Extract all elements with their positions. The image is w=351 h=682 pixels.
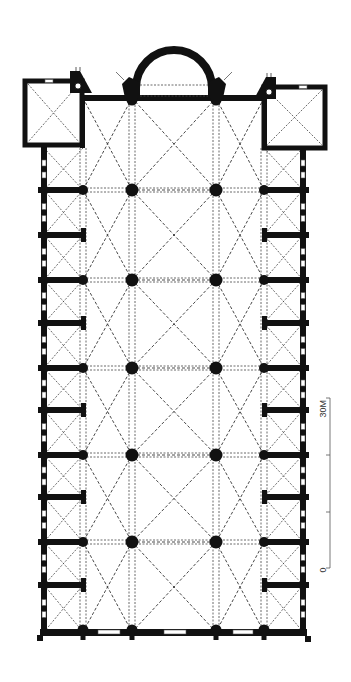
window (301, 172, 305, 178)
buttress-wall (38, 494, 83, 500)
aisle-pier (259, 275, 269, 285)
buttress-wall (38, 277, 83, 283)
spiral-stair-icon (266, 89, 272, 95)
buttress-wall (38, 320, 83, 326)
stair-turret (254, 77, 276, 99)
window (42, 337, 46, 343)
nave-pier (126, 274, 139, 287)
left-chapel (25, 67, 92, 145)
buttress-end (81, 228, 86, 242)
window (42, 612, 46, 618)
window (42, 172, 46, 178)
window (42, 511, 46, 517)
nave-pier (210, 449, 223, 462)
buttress-wall (264, 320, 309, 326)
window (42, 392, 46, 398)
piers (78, 95, 270, 641)
buttress-wall (264, 582, 309, 588)
nave-pier (210, 274, 223, 287)
window (301, 392, 305, 398)
window (42, 436, 46, 442)
buttress-wall (264, 407, 309, 413)
window (42, 204, 46, 210)
buttress-wall (264, 494, 309, 500)
nave-pier (126, 449, 139, 462)
buttress-end (262, 490, 267, 504)
aisle-vault-rib (216, 455, 264, 542)
aisle-pier (78, 450, 88, 460)
apse-tick (224, 72, 232, 80)
window (42, 467, 46, 473)
window (301, 249, 305, 255)
buttress-wall (264, 187, 309, 193)
window (42, 249, 46, 255)
scale-label-0: 0 (318, 567, 328, 572)
buttress-end (262, 316, 267, 330)
aisle-vault-rib (216, 455, 264, 542)
buttress-end (81, 490, 86, 504)
corner-buttress (37, 635, 43, 641)
west-pier-buttress (130, 632, 135, 640)
buttress-wall (38, 407, 83, 413)
window (301, 479, 305, 485)
nave-pier (126, 184, 139, 197)
window (42, 216, 46, 222)
buttress-wall (38, 539, 83, 545)
buttress-wall (38, 187, 83, 193)
aisle-pier (259, 537, 269, 547)
aisle-pier (259, 450, 269, 460)
door (233, 630, 253, 634)
window (301, 436, 305, 442)
aisle-vault-rib (83, 455, 132, 542)
aisle-pier (78, 275, 88, 285)
chapel-window (45, 80, 53, 83)
window (301, 380, 305, 386)
aisle-pier (78, 537, 88, 547)
west-pier-buttress (81, 632, 86, 640)
door (98, 630, 120, 634)
outer-aisle-rib (44, 585, 83, 632)
west-pier-buttress (214, 632, 219, 640)
buttress-wall (38, 582, 83, 588)
right-chapel (254, 73, 325, 148)
window (42, 160, 46, 166)
window (301, 337, 305, 343)
window (301, 261, 305, 267)
chapel-window (299, 86, 307, 89)
buttress-end (262, 578, 267, 592)
buttress-end (262, 228, 267, 242)
window (301, 424, 305, 430)
window (301, 293, 305, 299)
aisle-vault-rib (83, 368, 132, 455)
buttress-end (81, 316, 86, 330)
aisle-vault-rib (83, 455, 132, 542)
window (301, 160, 305, 166)
window (42, 479, 46, 485)
nave-pier (210, 362, 223, 375)
outer-aisle-rib (44, 585, 83, 632)
door (164, 630, 186, 634)
window (42, 349, 46, 355)
stair-turret (70, 71, 92, 93)
buttress-wall (38, 365, 83, 371)
window (42, 600, 46, 606)
window (301, 567, 305, 573)
outer-aisle-rib (264, 585, 303, 632)
window (301, 600, 305, 606)
nave-vault-rib (132, 190, 216, 280)
buttress-wall (264, 365, 309, 371)
window (42, 305, 46, 311)
apse-tick (116, 72, 124, 80)
buttress-wall (264, 277, 309, 283)
window (42, 523, 46, 529)
corner-buttress (305, 636, 311, 642)
chapels (25, 67, 325, 148)
aisle-pier (259, 363, 269, 373)
window (42, 293, 46, 299)
aisle-pier (259, 185, 269, 195)
aisle-pier (78, 363, 88, 373)
window (301, 305, 305, 311)
window (42, 261, 46, 267)
window (301, 612, 305, 618)
buttress-wall (264, 539, 309, 545)
